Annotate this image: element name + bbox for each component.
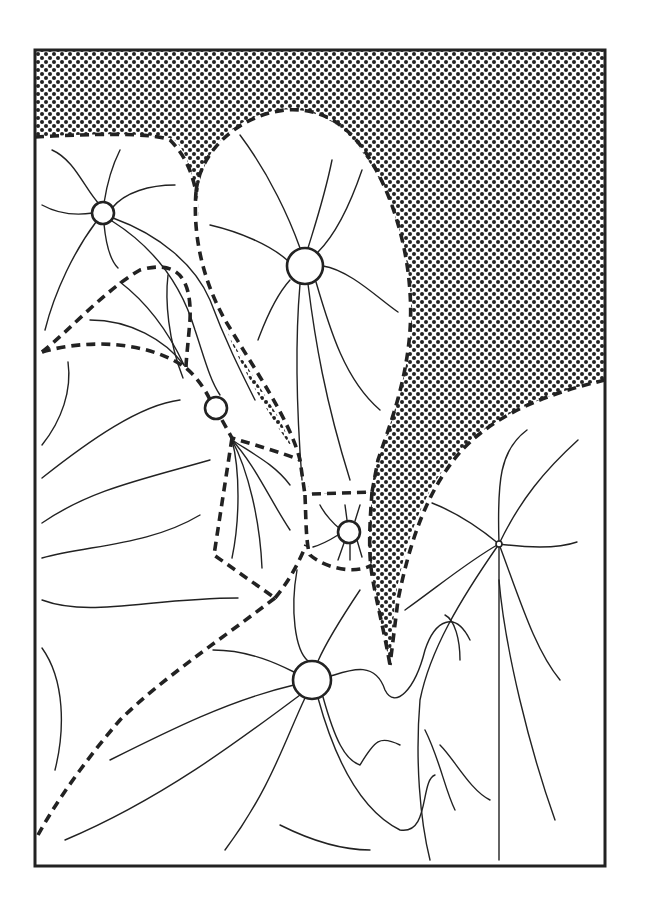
watershed-diagram bbox=[0, 0, 645, 900]
stippled-region bbox=[35, 50, 605, 665]
node-middle-small bbox=[338, 521, 360, 543]
node-middle-left bbox=[205, 397, 227, 419]
node-large-upper bbox=[287, 248, 323, 284]
node-bottom-large bbox=[293, 661, 331, 699]
node-right-tiny bbox=[496, 541, 502, 547]
node-top-left bbox=[92, 202, 114, 224]
